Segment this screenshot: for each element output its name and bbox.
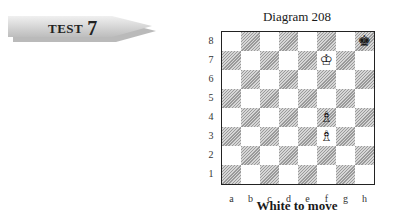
square-f7: ♔ — [317, 51, 336, 70]
square-d7 — [279, 51, 298, 70]
square-c8 — [260, 32, 279, 51]
square-f5 — [317, 89, 336, 108]
rank-label: 7 — [206, 54, 216, 65]
square-a3 — [222, 127, 241, 146]
rank-label: 5 — [206, 92, 216, 103]
rank-label: 2 — [206, 149, 216, 160]
rank-label: 8 — [206, 35, 216, 46]
square-g4 — [336, 108, 355, 127]
square-b8 — [241, 32, 260, 51]
square-b4 — [241, 108, 260, 127]
square-e2 — [298, 146, 317, 165]
test-label: TEST7 — [48, 17, 98, 40]
square-g1 — [336, 165, 355, 184]
square-d2 — [279, 146, 298, 165]
square-e8 — [298, 32, 317, 51]
square-f3: ♗ — [317, 127, 336, 146]
square-g8 — [336, 32, 355, 51]
test-word: TEST — [48, 21, 83, 36]
square-e4 — [298, 108, 317, 127]
square-h2 — [355, 146, 374, 165]
square-f2 — [317, 146, 336, 165]
square-a4 — [222, 108, 241, 127]
square-b7 — [241, 51, 260, 70]
square-b1 — [241, 165, 260, 184]
square-f4: ♗ — [317, 108, 336, 127]
square-b2 — [241, 146, 260, 165]
square-e3 — [298, 127, 317, 146]
square-e7 — [298, 51, 317, 70]
square-c3 — [260, 127, 279, 146]
square-d6 — [279, 70, 298, 89]
test-number: 7 — [87, 17, 98, 39]
side-to-move-caption: White to move — [221, 198, 373, 214]
square-d5 — [279, 89, 298, 108]
rank-label: 1 — [206, 168, 216, 179]
square-h7 — [355, 51, 374, 70]
square-b3 — [241, 127, 260, 146]
square-d4 — [279, 108, 298, 127]
square-f1 — [317, 165, 336, 184]
square-d3 — [279, 127, 298, 146]
square-g7 — [336, 51, 355, 70]
square-g5 — [336, 89, 355, 108]
rank-label: 3 — [206, 130, 216, 141]
square-g6 — [336, 70, 355, 89]
square-b5 — [241, 89, 260, 108]
square-a7 — [222, 51, 241, 70]
square-h1 — [355, 165, 374, 184]
rank-label: 6 — [206, 73, 216, 84]
square-a6 — [222, 70, 241, 89]
square-h3 — [355, 127, 374, 146]
square-c7 — [260, 51, 279, 70]
square-d1 — [279, 165, 298, 184]
square-b6 — [241, 70, 260, 89]
square-a1 — [222, 165, 241, 184]
square-c2 — [260, 146, 279, 165]
square-d8 — [279, 32, 298, 51]
square-c6 — [260, 70, 279, 89]
square-e6 — [298, 70, 317, 89]
rank-label: 4 — [206, 111, 216, 122]
square-c1 — [260, 165, 279, 184]
white-bishop-icon: ♗ — [320, 110, 333, 125]
chess-board: ♚♔♗♗ — [221, 31, 375, 185]
square-e5 — [298, 89, 317, 108]
square-c4 — [260, 108, 279, 127]
square-a2 — [222, 146, 241, 165]
square-h6 — [355, 70, 374, 89]
diagram-title: Diagram 208 — [221, 9, 373, 25]
black-king-icon: ♚ — [358, 34, 371, 49]
square-a5 — [222, 89, 241, 108]
square-h5 — [355, 89, 374, 108]
square-g3 — [336, 127, 355, 146]
square-a8 — [222, 32, 241, 51]
square-f6 — [317, 70, 336, 89]
square-c5 — [260, 89, 279, 108]
square-h8: ♚ — [355, 32, 374, 51]
white-bishop-icon: ♗ — [320, 129, 333, 144]
white-king-icon: ♔ — [320, 53, 333, 68]
test-banner: TEST7 — [8, 14, 154, 40]
square-g2 — [336, 146, 355, 165]
square-h4 — [355, 108, 374, 127]
square-f8 — [317, 32, 336, 51]
square-e1 — [298, 165, 317, 184]
